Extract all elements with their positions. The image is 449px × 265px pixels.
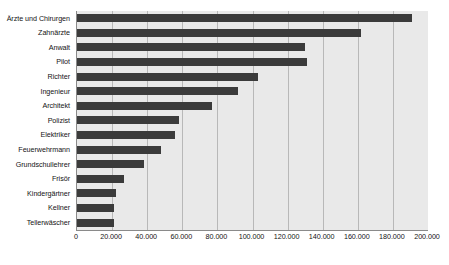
- bar: [77, 102, 212, 110]
- category-label: Anwalt: [0, 40, 73, 55]
- value-tick-label: 100.000: [239, 232, 265, 241]
- bar-row: [77, 128, 428, 143]
- bar-row: [77, 55, 428, 70]
- category-axis: Ärzte und ChirurgenZahnärzteAnwaltPilotR…: [0, 11, 73, 230]
- category-label: Architekt: [0, 99, 73, 114]
- category-label: Polizist: [0, 113, 73, 128]
- value-tick-label: 40.000: [135, 232, 157, 241]
- category-label: Frisör: [0, 172, 73, 187]
- bar: [77, 14, 412, 22]
- category-label: Kindergärtner: [0, 186, 73, 201]
- bar-row: [77, 201, 428, 216]
- bar: [77, 29, 361, 37]
- plot-area: [76, 11, 428, 231]
- bar: [77, 160, 144, 168]
- value-tick-label: 160.000: [344, 232, 370, 241]
- bar-row: [77, 172, 428, 187]
- bar: [77, 87, 238, 95]
- category-label: Grundschullehrer: [0, 157, 73, 172]
- value-axis: 020.00040.00060.00080.000100.000120.0001…: [76, 232, 427, 246]
- value-tick-label: 140.000: [309, 232, 335, 241]
- bar-row: [77, 186, 428, 201]
- value-tick-label: 20.000: [100, 232, 122, 241]
- bar: [77, 43, 305, 51]
- bar: [77, 204, 114, 212]
- category-label: Tellerwäscher: [0, 215, 73, 230]
- bar-row: [77, 40, 428, 55]
- category-label: Kellner: [0, 201, 73, 216]
- value-tick-label: 200.000: [414, 232, 440, 241]
- bar: [77, 116, 179, 124]
- bar-row: [77, 113, 428, 128]
- bar-row: [77, 26, 428, 41]
- bar-row: [77, 84, 428, 99]
- bar-row: [77, 215, 428, 230]
- bar: [77, 131, 175, 139]
- category-label: Pilot: [0, 55, 73, 70]
- category-label: Ärzte und Chirurgen: [0, 11, 73, 26]
- bar-series: [77, 11, 428, 230]
- bar: [77, 73, 258, 81]
- value-tick-label: 180.000: [379, 232, 405, 241]
- category-label: Zahnärzte: [0, 26, 73, 41]
- bar: [77, 58, 307, 66]
- value-tick-label: 60.000: [170, 232, 192, 241]
- bar: [77, 219, 114, 227]
- category-label: Richter: [0, 69, 73, 84]
- category-label: Elektriker: [0, 128, 73, 143]
- value-tick-label: 120.000: [274, 232, 300, 241]
- category-label: Feuerwehrmann: [0, 142, 73, 157]
- bar: [77, 146, 161, 154]
- bar-row: [77, 157, 428, 172]
- bar: [77, 189, 116, 197]
- bar: [77, 175, 124, 183]
- bar-row: [77, 142, 428, 157]
- bar-row: [77, 99, 428, 114]
- bar-row: [77, 11, 428, 26]
- value-tick-label: 80.000: [206, 232, 228, 241]
- bar-chart: Ärzte und ChirurgenZahnärzteAnwaltPilotR…: [0, 0, 449, 265]
- category-label: Ingenieur: [0, 84, 73, 99]
- bar-row: [77, 69, 428, 84]
- value-tick-label: 0: [74, 232, 78, 241]
